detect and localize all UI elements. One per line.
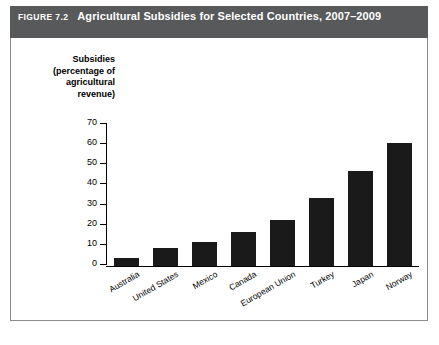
y-axis-title: Subsidies (percentage of agricultural re… [19,54,115,100]
x-axis-category-label: Japan [349,269,374,289]
bar[interactable] [192,242,217,266]
y-axis-tick-label: 50 [87,157,97,167]
y-axis-tick-label: 10 [87,238,97,248]
y-axis-tick: 30 [100,204,106,205]
bar[interactable] [309,198,334,266]
bar[interactable] [387,143,412,266]
bar-slot [107,125,146,266]
y-axis-title-line-1: Subsidies [19,54,115,66]
bar[interactable] [114,258,139,266]
y-axis-tick: 20 [100,224,106,225]
x-axis-category-label: Norway [384,269,414,292]
bar[interactable] [348,171,373,266]
bar-slot [341,125,380,266]
y-axis-tick: 70 [100,123,106,124]
y-axis-tick-label: 30 [87,198,97,208]
y-axis-tick-label: 70 [87,117,97,127]
bar[interactable] [153,248,178,266]
y-axis-tick-label: 40 [87,177,97,187]
bar-slot [302,125,341,266]
y-axis-tick: 40 [100,183,106,184]
figure-frame: Subsidies (percentage of agricultural re… [10,38,428,321]
bar-chart: Subsidies (percentage of agricultural re… [11,38,429,321]
bar-slot [263,125,302,266]
y-axis-title-line-2: (percentage of [19,66,115,78]
x-axis-category-label: Turkey [308,269,335,290]
y-axis-tick: 0 [100,264,106,265]
x-axis-category-label: Canada [227,269,258,293]
bar-slot [146,125,185,266]
y-axis-tick-label: 0 [92,258,97,268]
y-axis-title-line-3: agricultural [19,77,115,89]
x-axis-category-label: Mexico [190,269,218,291]
figure-header: FIGURE 7.2 Agricultural Subsidies for Se… [10,6,428,38]
y-axis-tick-label: 60 [87,137,97,147]
y-axis-tick-label: 20 [87,218,97,228]
bar-slot [380,125,419,266]
y-axis-tick: 60 [100,143,106,144]
bar[interactable] [270,220,295,266]
plot-area: 010203040506070 [106,123,419,267]
x-axis-category-labels: AustraliaUnited StatesMexicoCanadaEurope… [106,269,419,319]
figure-number-label: FIGURE 7.2 [10,10,68,22]
bar-series [107,125,419,266]
bar-slot [185,125,224,266]
y-axis-tick: 10 [100,244,106,245]
bar[interactable] [231,232,256,266]
bar-slot [224,125,263,266]
y-axis-tick: 50 [100,163,106,164]
x-axis-line [106,266,419,267]
figure-title: Agricultural Subsidies for Selected Coun… [68,10,381,24]
y-axis-title-line-4: revenue) [19,89,115,101]
